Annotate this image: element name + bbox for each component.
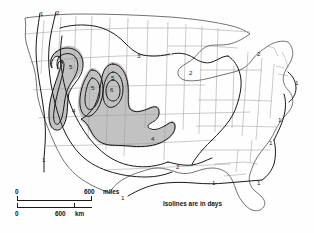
isoline-label: 5 bbox=[111, 74, 115, 81]
isoline-label: 2 bbox=[56, 9, 60, 16]
isoline-label: 1 bbox=[212, 179, 216, 186]
isoline-label: 1 bbox=[269, 139, 273, 146]
isoline-label: 4 bbox=[60, 58, 64, 65]
isoline-label: 1 bbox=[40, 10, 44, 17]
isoline-2-gulf bbox=[168, 158, 212, 165]
isoline-label: 1 bbox=[121, 194, 125, 201]
isoline-label: 3 bbox=[137, 52, 141, 59]
us-contour-map: 1 2 1 3 4 5 4 5 5 6 4 2 2 1 1 1 2 1 1 1 bbox=[0, 0, 314, 233]
isoline-1-newengland bbox=[288, 72, 296, 102]
isoline-label: 1 bbox=[42, 156, 46, 163]
scale-bar-miles-end-label: 600 bbox=[84, 188, 95, 195]
scale-bar-km-tick-start bbox=[17, 203, 18, 208]
scale-bar-miles-line bbox=[17, 200, 92, 201]
scale-bar-km-line bbox=[17, 207, 92, 208]
isoline-label: 4 bbox=[72, 107, 76, 114]
isoline-1-gulf bbox=[128, 180, 262, 196]
scale-bar-km-tick-end bbox=[74, 203, 75, 208]
isoline-label: 1 bbox=[295, 79, 299, 86]
isoline-label: 5 bbox=[69, 63, 73, 70]
isoline-label: 1 bbox=[278, 116, 282, 123]
scale-bar-km-start-label: 0 bbox=[15, 210, 19, 217]
scale-bar-km-end-label: 600 bbox=[55, 210, 66, 217]
isoline-label: 2 bbox=[176, 163, 180, 170]
isoline-units-note: Isolines are in days bbox=[163, 200, 222, 207]
scale-bar-miles-tick-end bbox=[91, 196, 92, 201]
isoline-label: 2 bbox=[189, 69, 193, 76]
isoline-label: 1 bbox=[257, 179, 261, 186]
scale-bar-km-unit-label: km bbox=[75, 210, 84, 217]
isoline-1-southeast bbox=[262, 140, 276, 180]
isoline-label: 4 bbox=[151, 135, 155, 142]
isoline-label: 2 bbox=[257, 50, 261, 57]
scale-bar-miles-tick-start bbox=[17, 196, 18, 201]
scale-bar-miles-unit-label: miles bbox=[103, 188, 119, 195]
isoline-label: 6 bbox=[110, 86, 114, 93]
scale-bar-miles-start-label: 0 bbox=[15, 188, 19, 195]
isoline-2-central-east bbox=[172, 53, 228, 63]
isoline-map-figure: 1 2 1 3 4 5 4 5 5 6 4 2 2 1 1 1 2 1 1 1 … bbox=[0, 0, 314, 233]
isoline-label: 5 bbox=[91, 84, 95, 91]
